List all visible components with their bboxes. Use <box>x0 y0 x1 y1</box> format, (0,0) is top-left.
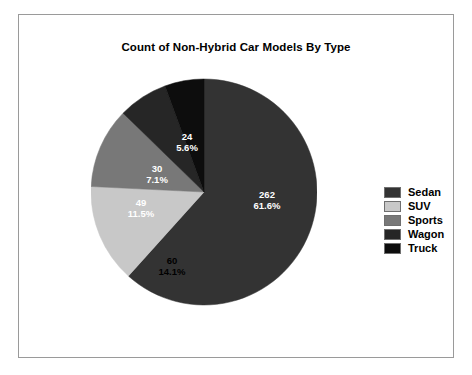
legend-swatch-icon <box>384 201 401 212</box>
legend-item-label: Sedan <box>408 186 441 198</box>
pie-chart-plot-area: 26261.6%6014.1%4911.5%307.1%245.6% <box>91 77 317 307</box>
legend-item-wagon[interactable]: Wagon <box>384 227 470 241</box>
chart-legend: SedanSUVSportsWagonTruck <box>384 185 470 255</box>
legend-item-label: Truck <box>408 242 437 254</box>
legend-item-label: SUV <box>408 200 431 212</box>
pie-slice-group <box>91 79 317 305</box>
legend-item-truck[interactable]: Truck <box>384 241 470 255</box>
legend-item-sports[interactable]: Sports <box>384 213 470 227</box>
chart-title: Count of Non-Hybrid Car Models By Type <box>19 41 453 53</box>
legend-swatch-icon <box>384 243 401 254</box>
legend-swatch-icon <box>384 229 401 240</box>
legend-item-sedan[interactable]: Sedan <box>384 185 470 199</box>
legend-item-suv[interactable]: SUV <box>384 199 470 213</box>
legend-item-label: Sports <box>408 214 443 226</box>
legend-swatch-icon <box>384 187 401 198</box>
chart-frame: Count of Non-Hybrid Car Models By Type 2… <box>18 14 454 358</box>
pie-chart-svg <box>91 77 317 307</box>
legend-swatch-icon <box>384 215 401 226</box>
legend-item-label: Wagon <box>408 228 444 240</box>
